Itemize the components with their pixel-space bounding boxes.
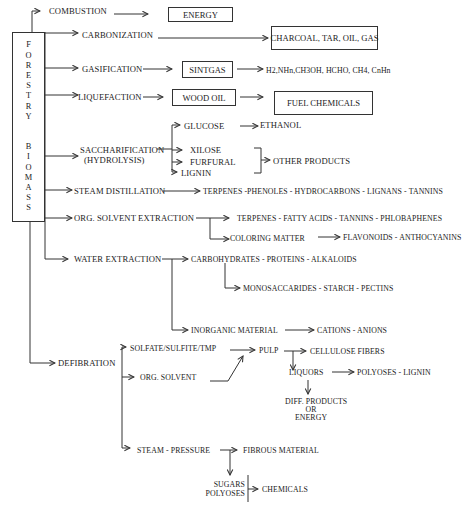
product-gases: H2,NHn,CH3OH, HCHO, CH4, CnHn bbox=[266, 66, 391, 76]
product-carbohydrates: CARBOHYDRATES - PROTEINS - ALKALOIDS bbox=[191, 255, 357, 265]
process-carbonization: CARBONIZATION bbox=[82, 30, 153, 40]
letter: F bbox=[26, 40, 31, 50]
defib-steam-pressure: STEAM - PRESSURE bbox=[137, 446, 210, 456]
letter: A bbox=[25, 183, 31, 193]
product-lignin: LIGNIN bbox=[181, 168, 211, 178]
process-gasification: GASIFICATION bbox=[82, 64, 142, 74]
defib-solfate: SOLFATE/SULFITE/TMP bbox=[130, 344, 216, 354]
letter: M bbox=[25, 173, 32, 183]
product-sintgas-box: SINTGAS bbox=[182, 61, 233, 78]
process-hydrolysis: (HYDROLYSIS) bbox=[84, 155, 145, 165]
product-ethanol: ETHANOL bbox=[260, 120, 301, 130]
product-charcoal-box: CHARCOAL, TAR, OIL, GAS bbox=[271, 26, 378, 50]
product-cations-anions: CATIONS - ANIONS bbox=[317, 326, 387, 336]
process-combustion: COMBUSTION bbox=[49, 6, 107, 16]
defib-org-solvent: ORG. SOLVENT bbox=[140, 373, 196, 383]
product-furfural: FURFURAL bbox=[190, 157, 236, 167]
letter: S bbox=[26, 81, 31, 91]
product-wood-oil-box: WOOD OIL bbox=[172, 89, 236, 106]
product-flavonoids: FLAVONOIDS - ANTHOCYANINS bbox=[343, 233, 461, 243]
process-saccharification: SACCHARIFICATION bbox=[80, 145, 164, 155]
defib-pulp: PULP bbox=[259, 346, 278, 356]
forestry-biomass-box: F O R E S T R Y B I O M A S S bbox=[12, 32, 45, 222]
product-xilose: XILOSE bbox=[190, 145, 221, 155]
letter: R bbox=[26, 102, 32, 112]
letter: R bbox=[26, 61, 32, 71]
defib-chemicals: CHEMICALS bbox=[262, 485, 308, 495]
letter: O bbox=[25, 51, 31, 61]
defib-energy: ENERGY bbox=[285, 413, 337, 423]
product-glucose: GLUCOSE bbox=[184, 121, 224, 131]
process-steam-distillation: STEAM DISTILLATION bbox=[74, 186, 165, 196]
letter: S bbox=[26, 193, 31, 203]
forestry-biomass-diagram: F O R E S T R Y B I O M A S S COMBUSTION… bbox=[0, 0, 464, 511]
process-defibration: DEFIBRATION bbox=[58, 358, 115, 368]
product-other-products: OTHER PRODUCTS bbox=[273, 156, 350, 166]
defib-polyoses: POLYOSES bbox=[200, 489, 245, 499]
product-steam-distillates: TERPENES -PHENOLES - HYDROCARBONS - LIGN… bbox=[203, 187, 443, 197]
product-fuel-chemicals-box: FUEL CHEMICALS bbox=[274, 91, 373, 115]
product-inorganic-material: INORGANIC MATERIAL bbox=[191, 326, 278, 336]
defib-polyoses-lignin: POLYOSES - LIGNIN bbox=[357, 368, 431, 378]
process-org-solvent-extraction: ORG. SOLVENT EXTRACTION bbox=[74, 213, 194, 223]
letter: B bbox=[26, 142, 32, 152]
letter: S bbox=[26, 203, 31, 213]
product-solvent-extracts: TERPENES - FATTY ACIDS - TANNINS - PHLOB… bbox=[237, 214, 442, 224]
product-monosaccarides: MONOSACCARIDES - STARCH - PECTINS bbox=[243, 284, 393, 294]
product-energy-box: ENERGY bbox=[168, 7, 233, 22]
defib-fibrous-material: FIBROUS MATERIAL bbox=[243, 446, 319, 456]
letter: E bbox=[26, 71, 31, 81]
defib-liquors: LIQUORS bbox=[289, 368, 324, 378]
process-water-extraction: WATER EXTRACTION bbox=[74, 254, 161, 264]
process-liquefaction: LIQUEFACTION bbox=[78, 92, 142, 102]
letter: I bbox=[27, 152, 30, 162]
defib-cellulose-fibers: CELLULOSE FIBERS bbox=[310, 347, 385, 357]
letter: Y bbox=[25, 112, 31, 122]
letter: O bbox=[25, 163, 31, 173]
product-coloring-matter: COLORING MATTER bbox=[230, 234, 305, 244]
letter: T bbox=[26, 91, 31, 101]
